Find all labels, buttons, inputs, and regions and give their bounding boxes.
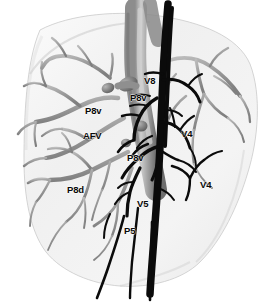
label-v5: V5 bbox=[137, 199, 148, 209]
label-afv: AFV bbox=[83, 131, 101, 141]
label-p8v-mid: P8v bbox=[127, 153, 143, 163]
label-v4-upper: V4 bbox=[181, 129, 192, 139]
label-p8d: P8d bbox=[67, 185, 84, 195]
liver-vasculature-figure: V8 P8v P8v AFV P8v V4 V4 P8d V5 P5 bbox=[0, 0, 273, 308]
label-p8v-left: P8v bbox=[85, 106, 101, 116]
label-v4-lower: V4 bbox=[200, 180, 211, 190]
label-v8: V8 bbox=[144, 76, 155, 86]
label-p5: P5 bbox=[124, 226, 135, 236]
label-p8v-upper: P8v bbox=[130, 93, 146, 103]
